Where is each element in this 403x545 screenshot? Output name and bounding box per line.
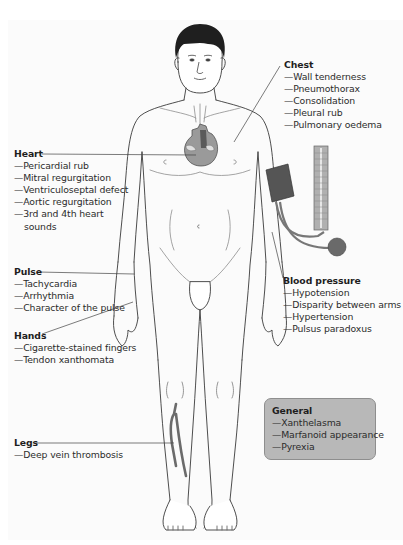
callout-blood-pressure-item: —Hypertension — [283, 311, 401, 323]
leader-chest — [234, 66, 280, 142]
callout-legs-title: Legs — [14, 437, 123, 449]
callout-chest-item: —Pulmonary oedema — [284, 119, 382, 131]
callout-hands-title: Hands — [14, 330, 136, 342]
left-leg-inner — [188, 310, 200, 528]
left-foot — [163, 500, 196, 530]
callout-general-box: General —Xanthelasma —Marfanoid appearan… — [264, 398, 376, 460]
callout-heart-item: —Pericardial rub — [14, 160, 132, 172]
callout-chest-item: —Consolidation — [284, 95, 382, 107]
bp-bulb — [328, 238, 346, 256]
callout-pulse-item: —Arrhythmia — [14, 290, 125, 302]
right-waist — [242, 152, 258, 360]
callout-general-title: General — [272, 405, 384, 417]
callout-blood-pressure-item: —Disparity between arms — [283, 299, 401, 311]
right-inner-arm — [258, 152, 266, 262]
left-waist — [142, 152, 158, 360]
callout-heart-item: —Mitral regurgitation — [14, 172, 132, 184]
callout-legs-item: —Deep vein thrombosis — [14, 449, 123, 461]
callout-pulse-title: Pulse — [14, 266, 125, 278]
callout-chest: Chest —Wall tenderness —Pneumothorax —Co… — [284, 59, 382, 132]
callout-pulse: Pulse —Tachycardia —Arrhythmia —Characte… — [14, 266, 125, 314]
callout-blood-pressure-title: Blood pressure — [283, 275, 401, 287]
callout-legs: Legs —Deep vein thrombosis — [14, 437, 123, 461]
right-leg-inner — [200, 310, 212, 528]
callout-heart-item: —Ventriculoseptal defect — [14, 184, 132, 196]
callout-general-item: —Pyrexia — [272, 441, 384, 453]
callout-heart-item: —Aortic regurgitation — [14, 196, 132, 208]
callout-blood-pressure-item: —Hypotension — [283, 287, 401, 299]
callout-blood-pressure: Blood pressure —Hypotension —Disparity b… — [283, 275, 401, 335]
callout-general-item: —Xanthelasma — [272, 417, 384, 429]
callout-pulse-item: —Tachycardia — [14, 278, 125, 290]
callout-blood-pressure-item: —Pulsus paradoxus — [283, 323, 401, 335]
callout-hands-item: —Cigarette-stained fingers — [14, 342, 136, 354]
manometer — [314, 146, 328, 230]
callout-chest-title: Chest — [284, 59, 382, 71]
callout-hands: Hands —Cigarette-stained fingers —Tendon… — [14, 330, 136, 366]
callout-heart: Heart —Pericardial rub —Mitral regurgita… — [14, 148, 132, 233]
callout-general-item: —Marfanoid appearance — [272, 429, 384, 441]
callout-chest-item: —Wall tenderness — [284, 71, 382, 83]
callout-chest-item: —Pleural rub — [284, 107, 382, 119]
bp-cuff — [266, 164, 294, 202]
left-inner-arm — [134, 152, 142, 262]
heart-drawing — [185, 124, 218, 166]
callout-chest-item: —Pneumothorax — [284, 83, 382, 95]
callout-heart-item: —3rd and 4th heart sounds — [14, 208, 108, 232]
callout-heart-title: Heart — [14, 148, 132, 160]
callout-pulse-item: —Character of the pulse — [14, 302, 125, 314]
callout-hands-item: —Tendon xanthomata — [14, 354, 136, 366]
right-foot — [204, 500, 237, 530]
callout-general: General —Xanthelasma —Marfanoid appearan… — [272, 405, 384, 453]
genitals — [189, 282, 210, 310]
dvt-vein — [171, 404, 186, 476]
